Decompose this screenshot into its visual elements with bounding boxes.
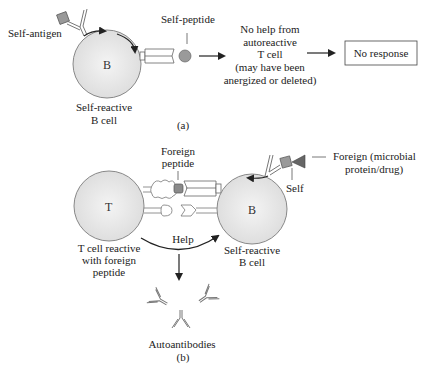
no-help-text: No help from autoreactive T cell (may ha… (224, 23, 317, 87)
panel-b: T Foreign peptide B (74, 145, 416, 364)
self-peptide-icon (179, 50, 191, 62)
no-help-line: (may have been (235, 61, 305, 74)
b-cell-caption-line: B cell (239, 256, 265, 268)
autoantibody-icon (172, 310, 190, 328)
b-cell-caption-line: B cell (91, 114, 117, 126)
no-help-line: autoreactive (243, 36, 297, 48)
no-help-line: T cell (257, 48, 282, 60)
t-cell-caption-line: peptide (93, 266, 125, 278)
panel-a: Self-antigen B Self-peptide No help from… (8, 9, 417, 132)
b-cell-receptor-icon (265, 155, 281, 176)
t-cell-caption-line: T cell reactive (78, 242, 141, 254)
self-antigen-icon (280, 156, 292, 168)
t-cell-caption-line: with foreign (82, 254, 137, 266)
foreign-peptide-icon (174, 184, 183, 193)
mhc-molecule-icon (184, 181, 221, 196)
foreign-peptide-label-line: peptide (162, 157, 194, 169)
mhc-molecule-icon (140, 49, 174, 63)
no-help-line: anergized or deleted) (224, 74, 317, 87)
help-label: Help (172, 233, 194, 245)
foreign-label-line: protein/drug) (345, 163, 403, 176)
b-cell-receptor-icon (80, 9, 87, 36)
costimulatory-ligand-icon (144, 205, 172, 216)
foreign-hapten-icon (292, 155, 305, 168)
t-cell-letter: T (105, 200, 113, 214)
panel-a-label: (a) (177, 119, 190, 132)
b-cell-letter: B (248, 203, 256, 217)
no-help-line: No help from (240, 23, 300, 35)
autoantibody-icon (194, 284, 219, 309)
autoantibody-icon (147, 287, 172, 312)
no-response-label: No response (354, 47, 409, 59)
diagram-canvas: Self-antigen B Self-peptide No help from… (0, 0, 427, 375)
foreign-label-line: Foreign (microbial (333, 150, 416, 163)
b-cell-caption-line: Self-reactive (76, 101, 132, 113)
self-label: Self (286, 182, 304, 194)
b-cell-caption-line: Self-reactive (224, 244, 280, 256)
foreign-peptide-label-line: Foreign (161, 145, 196, 157)
costimulatory-receptor-icon (181, 205, 222, 216)
t-cell-receptor-icon (143, 180, 177, 199)
autoantibodies-label: Autoantibodies (148, 338, 215, 350)
self-peptide-label: Self-peptide (161, 13, 215, 25)
b-cell-letter: B (103, 58, 111, 72)
panel-b-label: (b) (177, 351, 190, 364)
self-antigen-label: Self-antigen (8, 27, 62, 39)
